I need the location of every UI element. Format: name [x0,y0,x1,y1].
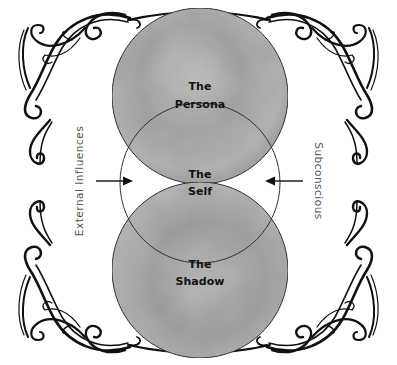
self-label-line1: The [189,168,212,181]
ornament-right-upper [345,120,367,164]
ornament-right-lower [345,201,367,245]
ornament-left-lower [30,201,52,245]
shadow-label-line1: The [189,258,212,271]
arrow-subconscious-to-self [265,177,303,186]
arrow-external-to-self [96,177,133,186]
psyche-diagram: The Persona The Self The Shadow External… [0,0,397,365]
persona-label-line2: Persona [175,98,225,111]
persona-circle [112,8,288,184]
persona-label-line1: The [189,80,212,93]
ornament-left-upper [30,120,52,164]
shadow-label-line2: Shadow [176,275,225,288]
external-influences-label: External Influences [73,126,85,236]
self-label-line2: Self [188,185,212,198]
subconscious-label: Subconscious [313,142,325,220]
